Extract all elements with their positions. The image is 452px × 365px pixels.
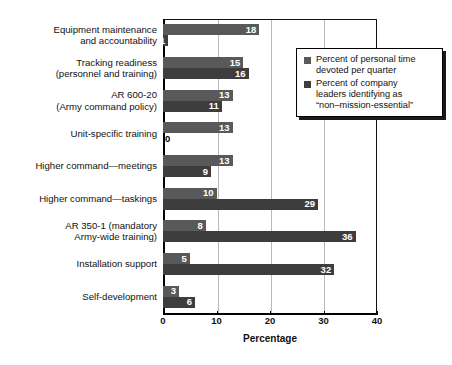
bar-group: 532 [163, 253, 377, 275]
x-tick-label: 10 [211, 315, 222, 326]
bar-value-label: 0 [163, 134, 170, 144]
chart-legend: Percent of personal time devoted per qua… [296, 48, 443, 117]
x-tick-label: 40 [372, 315, 383, 326]
bar-value-label: 3 [171, 286, 179, 296]
bar-value-label: 13 [219, 90, 233, 100]
bar: 18 [163, 24, 259, 35]
category-label: Self-development [0, 291, 157, 303]
bar: 3 [163, 286, 179, 297]
bar: 8 [163, 220, 206, 231]
legend-item-label: Percent of personal time devoted per qua… [316, 54, 416, 76]
legend-swatch-icon [304, 81, 311, 88]
bar-value-label: 13 [219, 123, 233, 133]
bar: 1 [163, 35, 168, 46]
bar-group: 139 [163, 155, 377, 177]
x-tick-label: 0 [160, 315, 165, 326]
category-label: AR 350-1 (mandatory Army-wide training) [0, 220, 157, 243]
bar: 29 [163, 199, 318, 210]
bar: 36 [163, 231, 356, 242]
bar: 9 [163, 166, 211, 177]
bar: 10 [163, 188, 217, 199]
bar-group: 130 [163, 122, 377, 144]
bar-value-label: 8 [198, 221, 206, 231]
bar: 13 [163, 122, 233, 133]
bar-value-label: 15 [230, 58, 244, 68]
legend-item-label: Percent of company leaders identifying a… [316, 78, 413, 111]
legend-item[interactable]: Percent of personal time devoted per qua… [304, 54, 437, 76]
bar-group: 36 [163, 286, 377, 308]
bar-value-label: 9 [203, 167, 211, 177]
bar-value-label: 18 [246, 25, 260, 35]
bar-value-label: 36 [342, 232, 356, 242]
bar-value-label: 1 [160, 36, 168, 46]
category-label: Unit-specific training [0, 128, 157, 140]
bar: 13 [163, 90, 233, 101]
legend-item[interactable]: Percent of company leaders identifying a… [304, 78, 437, 111]
bar: 6 [163, 297, 195, 308]
bar-value-label: 11 [209, 101, 222, 111]
bar-group: 181 [163, 24, 377, 46]
category-label: Tracking readiness (personnel and traini… [0, 57, 157, 80]
bar-value-label: 29 [305, 199, 319, 209]
bar: 15 [163, 57, 243, 68]
category-label: Higher command—taskings [0, 193, 157, 205]
category-label: Higher command—meetings [0, 160, 157, 172]
bar-value-label: 13 [219, 156, 233, 166]
bar: 13 [163, 155, 233, 166]
bar-value-label: 5 [181, 254, 189, 264]
bar-group: 836 [163, 220, 377, 242]
bar-chart: Equipment maintenance and accountability… [0, 0, 452, 365]
bar-value-label: 10 [203, 188, 217, 198]
x-tick-label: 30 [318, 315, 329, 326]
bar: 32 [163, 264, 334, 275]
legend-swatch-icon [304, 57, 311, 64]
bar-value-label: 32 [321, 265, 335, 275]
bar: 16 [163, 68, 249, 79]
x-axis-title: Percentage [163, 333, 377, 344]
bar-value-label: 16 [235, 69, 249, 79]
x-tick-label: 20 [265, 315, 276, 326]
bar: 5 [163, 253, 190, 264]
bar-value-label: 6 [187, 297, 195, 307]
category-label: Installation support [0, 258, 157, 270]
category-labels: Equipment maintenance and accountability… [0, 19, 157, 313]
bar: 11 [163, 101, 222, 112]
x-axis-ticks: 010203040 [163, 315, 377, 329]
category-label: AR 600-20 (Army command policy) [0, 89, 157, 112]
bar-group: 1029 [163, 188, 377, 210]
category-label: Equipment maintenance and accountability [0, 24, 157, 47]
